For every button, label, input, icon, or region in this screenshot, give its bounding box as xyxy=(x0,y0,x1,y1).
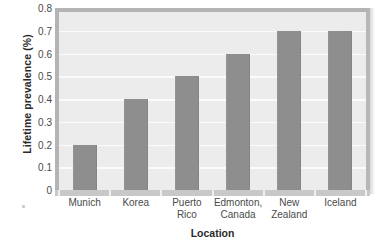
axis-tick-mark xyxy=(109,190,111,196)
y-axis-tick-label: 0.3 xyxy=(20,116,52,127)
bar xyxy=(73,145,97,191)
x-axis-tick-label: New Zealand xyxy=(264,197,315,220)
y-axis-tick-label: 0 xyxy=(20,185,52,196)
axis-tick-mark xyxy=(314,190,316,196)
x-axis-tick-labels: MunichKoreaPuerto RicoEdmonton, CanadaNe… xyxy=(55,197,370,223)
x-axis-title: Location xyxy=(55,227,370,239)
y-axis-tick-label: 0.6 xyxy=(20,48,52,59)
bar xyxy=(328,31,352,190)
bar-series xyxy=(59,12,366,190)
bar xyxy=(226,54,250,191)
y-axis-tick-label: 0.7 xyxy=(20,25,52,36)
axis-tick-mark xyxy=(365,190,367,196)
bar xyxy=(277,31,301,190)
bar-chart-figure: Lifetime prevalence (%) 0.80.70.60.50.40… xyxy=(0,0,377,245)
plot-frame xyxy=(55,8,370,190)
axis-tick-mark xyxy=(160,190,162,196)
x-axis-tick-label: Puerto Rico xyxy=(161,197,212,220)
y-axis-tick-label: 0.2 xyxy=(20,139,52,150)
y-axis-tick-label: 0.4 xyxy=(20,94,52,105)
y-axis-tick-label: 0.5 xyxy=(20,71,52,82)
bar xyxy=(175,76,199,190)
x-axis-tick-label: Munich xyxy=(59,197,110,209)
bar xyxy=(124,99,148,190)
axis-tick-mark xyxy=(263,190,265,196)
scan-speck xyxy=(22,205,25,208)
x-axis-tick-label: Korea xyxy=(110,197,161,209)
y-axis-tick-labels: 0.80.70.60.50.40.30.20.10 xyxy=(20,8,52,190)
y-axis-tick-label: 0.8 xyxy=(20,3,52,14)
x-axis-tick-label: Edmonton, Canada xyxy=(213,197,264,220)
axis-tick-mark xyxy=(212,190,214,196)
x-axis-tick-label: Iceland xyxy=(315,197,366,209)
y-axis-tick-label: 0.1 xyxy=(20,162,52,173)
plot-area xyxy=(59,12,366,190)
axis-tick-mark xyxy=(58,190,60,196)
x-axis-baseline xyxy=(55,190,370,196)
page-edge-shadow xyxy=(370,8,375,194)
